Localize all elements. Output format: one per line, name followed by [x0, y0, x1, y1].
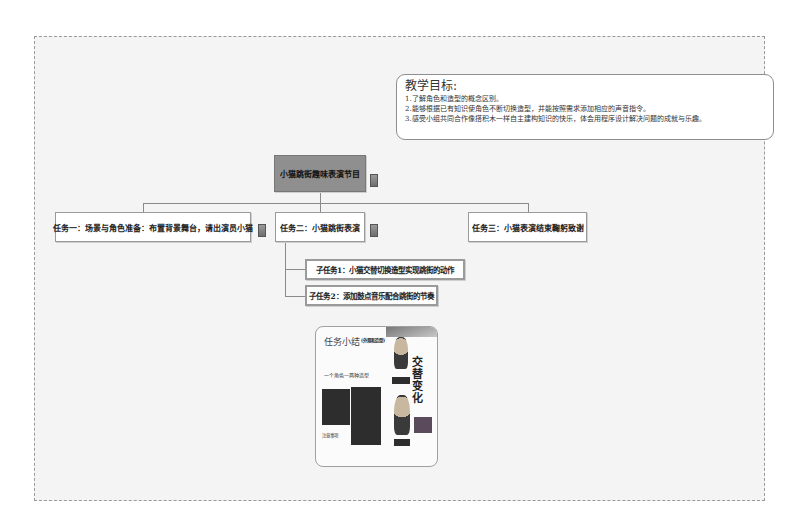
task-node-3[interactable]: 任务三：小猫表演结束鞠躬致谢: [468, 212, 587, 242]
task-node-1[interactable]: 任务一：场景与角色准备：布置背景舞台，请出演员小猫: [55, 212, 251, 242]
costume-label-2: [394, 439, 410, 446]
connector: [285, 269, 305, 270]
connector: [528, 203, 529, 212]
goal-line-1: 1.了解角色和造型的概念区别。: [405, 94, 765, 104]
connector: [143, 203, 528, 204]
cat-costume-2-icon: [394, 395, 410, 435]
costume-panel-1: [322, 389, 350, 425]
summary-subtitle: (外观和造型): [361, 337, 385, 343]
goals-title: 教学目标:: [405, 78, 765, 94]
costume-panel-2: [351, 387, 381, 445]
decor-banner: [386, 327, 438, 337]
summary-image[interactable]: 任务小结 (外观和造型) 交替变化 一个角色—两种造型 注意事项: [315, 326, 438, 467]
subtask-node-1[interactable]: 子任务1：小猫交替切换造型实现跳街的动作: [305, 259, 465, 280]
note-icon[interactable]: [370, 174, 378, 187]
teaching-goals-box[interactable]: 教学目标: 1.了解角色和造型的概念区别。 2.能够根据已有知识使角色不断切换造…: [396, 74, 774, 140]
costume-label-1: [392, 377, 410, 384]
costume-thumb: [414, 417, 432, 433]
connector: [320, 203, 321, 212]
note-icon[interactable]: [258, 224, 266, 237]
cat-costume-1-icon: [394, 337, 408, 369]
goal-line-2: 2.能够根据已有知识使角色不断切换造型，并能按照需求添加相应的声音指令。: [405, 104, 765, 114]
connector: [320, 192, 321, 203]
summary-title: 任务小结: [324, 335, 360, 348]
task-node-2[interactable]: 任务二：小猫跳街表演: [275, 212, 365, 242]
connector: [143, 203, 144, 212]
goal-line-3: 3.感受小组共同合作像搭积木一样自主建构知识的快乐，体会用程序设计解决问题的成就…: [405, 114, 765, 124]
root-node[interactable]: 小猫跳街趣味表演节目: [274, 155, 366, 192]
alternate-change-text: 交替变化: [412, 357, 425, 405]
connector: [285, 296, 305, 297]
summary-label: 一个角色—两种造型: [324, 371, 369, 378]
note-icon[interactable]: [370, 224, 378, 237]
summary-note: 注意事项: [322, 432, 338, 438]
subtask-node-2[interactable]: 子任务2：添加鼓点音乐配合跳街的节奏: [305, 285, 438, 306]
